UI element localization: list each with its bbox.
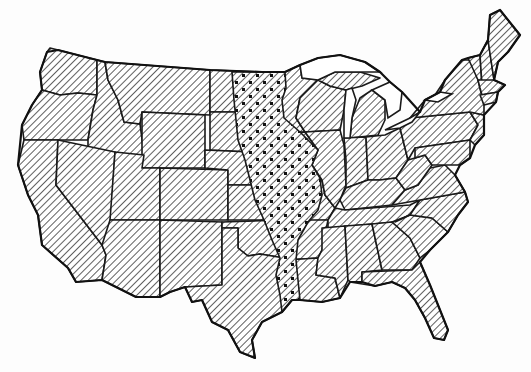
state-florida bbox=[350, 262, 448, 340]
state-indiana bbox=[344, 137, 368, 188]
state-washington bbox=[40, 48, 97, 95]
us-map-svg bbox=[0, 0, 531, 372]
state-maine bbox=[488, 10, 520, 80]
state-oregon bbox=[22, 90, 97, 140]
state-colorado bbox=[160, 168, 228, 220]
state-wyoming bbox=[142, 112, 205, 168]
us-map bbox=[0, 0, 531, 372]
